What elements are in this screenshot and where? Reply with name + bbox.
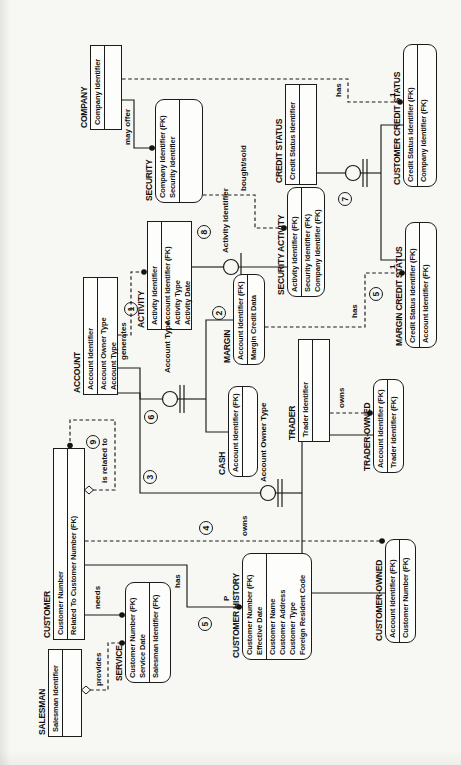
- attribute-row: Salesman Identifier: [51, 654, 61, 732]
- label-provides: provides: [94, 653, 103, 686]
- entity-title: CUSTOMER CREDIT STATUS: [392, 72, 402, 185]
- label-owns-trader: owns: [337, 388, 346, 408]
- label-is-related-to: is related to: [100, 438, 109, 483]
- attribute-row: Company Identifier (FK): [313, 192, 323, 292]
- nonkey-attributes: Customer NameCustomer AddressCustomer Ty…: [266, 554, 311, 659]
- entity-customer: CUSTOMERCustomer NumberRelated To Custom…: [53, 448, 85, 640]
- entity-box: Account Identifier (FK)Margin Credit Dat…: [233, 274, 265, 365]
- nonkey-attributes: Customer Number (FK): [399, 540, 415, 642]
- label-cardinality-p-customer-history: P: [222, 596, 231, 601]
- entity-margin-credit-status: MARGIN CREDIT STATUSCredit Status Identi…: [405, 222, 437, 348]
- label-needs: needs: [93, 586, 102, 609]
- entity-title: MARGIN CREDIT STATUS: [394, 246, 404, 346]
- entity-box: Customer Number (FK)Service DateSalesman…: [125, 582, 171, 683]
- entity-box: Salesman Identifier: [48, 649, 82, 737]
- entity-box: Credit Status Identifier (FK)Account Ide…: [405, 222, 437, 348]
- attribute-row: Service Date: [138, 587, 148, 678]
- attribute-row: Related To Customer Number (FK): [69, 453, 79, 635]
- connector-needs: [85, 612, 125, 618]
- nonkey-attributes: Trader Identifier (FK): [387, 380, 403, 472]
- circled-number-8: 8: [197, 225, 211, 239]
- label-owns-customer: owns: [240, 516, 249, 536]
- key-attributes: Credit Status Identifier (FK): [404, 45, 417, 186]
- nonkey-attributes: [312, 340, 329, 441]
- label-cardinality-1-margin-credit-status: 1: [388, 265, 397, 269]
- entity-credit-status: CREDIT STATUSCredit Status Identifier: [285, 84, 317, 185]
- label-has-customer-history: has: [173, 574, 182, 588]
- nonkey-attributes: Account Identifier (FK)Activity TypeActi…: [161, 222, 194, 329]
- label-has-customer-credit-status: has: [334, 83, 343, 97]
- circled-number-5: 5: [198, 617, 212, 631]
- key-attributes: Company Identifier: [91, 46, 104, 129]
- entity-title: SECURITY: [144, 160, 154, 201]
- entity-trader-owned: TRADER-OWNEDAccount Identifier (FK)Trade…: [373, 379, 404, 473]
- entity-trader: TRADERTrader Identifier: [298, 339, 330, 442]
- entity-title: CUSTOMER: [42, 591, 52, 638]
- nonkey-attributes: [179, 100, 202, 202]
- attribute-row: Activity Date: [183, 226, 193, 325]
- circled-number-4: 4: [199, 521, 213, 535]
- nonkey-attributes: Company Identifier (FK): [417, 45, 436, 186]
- entity-box: Activity Identifier (FK)Security Identif…: [287, 187, 325, 297]
- entity-security-activity: SECURITY ACTIVITYActivity Identifier (FK…: [287, 187, 325, 297]
- nonkey-attributes: Account Identifier (FK): [419, 223, 436, 347]
- attribute-row: Account Type: [109, 282, 119, 390]
- label-category-account-type: Account Type: [163, 321, 172, 373]
- key-attributes: Credit Status Identifier (FK): [406, 223, 419, 347]
- er-diagram-canvas: SALESMANSalesman IdentifierCUSTOMERCusto…: [0, 0, 461, 765]
- attribute-row: Trader Identifier (FK): [389, 384, 399, 468]
- label-may-offer: may offer: [123, 109, 132, 145]
- nonkey-attributes: [299, 85, 316, 184]
- key-attributes: Company Identifier (FK)Security Identifi…: [156, 100, 179, 202]
- nonkey-attributes: Salesman Identifier (FK): [149, 583, 170, 682]
- label-cardinality-1-customer-credit-status: 1: [388, 93, 397, 97]
- entity-activity: ACTIVITYActivity IdentifierAccount Ident…: [147, 221, 192, 330]
- entity-margin: MARGINAccount Identifier (FK)Margin Cred…: [233, 274, 265, 365]
- label-bought-sold: bought/sold: [239, 145, 248, 191]
- key-attributes: Customer Number (FK)Effective Date: [243, 554, 266, 659]
- entity-box: Company Identifier (FK)Security Identifi…: [155, 99, 203, 203]
- circled-number-7: 7: [338, 192, 352, 206]
- attribute-row: Security Identifier: [168, 104, 178, 198]
- attribute-row: Account Identifier (FK): [231, 391, 241, 472]
- attribute-row: Activity Identifier: [150, 226, 160, 325]
- attribute-row: Customer Number: [56, 453, 66, 635]
- key-attributes: Account Identifier (FK): [374, 380, 387, 472]
- entity-box: Credit Status Identifier (FK)Company Ide…: [403, 44, 437, 187]
- attribute-row: Activity Identifier (FK): [290, 192, 300, 292]
- scanned-page: SALESMANSalesman IdentifierCUSTOMERCusto…: [0, 0, 461, 765]
- entity-title: MARGIN: [222, 330, 232, 363]
- entity-box: Account Identifier (FK): [228, 386, 258, 477]
- key-attributes: Account Identifier: [84, 278, 97, 394]
- circled-number-3: 3: [143, 470, 157, 484]
- attribute-row: Account Identifier (FK): [236, 279, 246, 360]
- attribute-row: Credit Status Identifier (FK): [406, 49, 416, 182]
- attribute-row: Salesman Identifier (FK): [151, 587, 161, 678]
- entity-salesman: SALESMANSalesman Identifier: [48, 649, 82, 737]
- entity-title: SERVICE: [114, 645, 124, 681]
- circled-number-5: 5: [369, 287, 383, 301]
- attribute-row: Account Owner Type: [99, 282, 109, 390]
- connector-owns-customer-owned: [85, 538, 385, 544]
- attribute-row: Customer Address: [278, 558, 288, 655]
- attribute-row: Margin Credit Data: [249, 279, 259, 360]
- entity-title: COMPANY: [79, 87, 89, 128]
- key-attributes: Salesman Identifier: [49, 650, 62, 736]
- entity-box: Account Identifier (FK)Customer Number (…: [385, 539, 416, 643]
- attribute-row: Account Identifier (FK): [376, 384, 386, 468]
- circled-number-1: 1: [124, 302, 138, 316]
- attribute-row: Company Identifier: [93, 50, 103, 125]
- entity-title: CUSTOMER HISTORY: [231, 573, 241, 658]
- attribute-row: Customer Name: [268, 558, 278, 655]
- nonkey-attributes: Margin Credit Data: [247, 275, 264, 364]
- attribute-row: Effective Date: [255, 558, 265, 655]
- attribute-row: Credit Status Identifier: [288, 89, 298, 180]
- nonkey-attributes: Account Owner TypeAccount Type: [97, 278, 120, 394]
- entity-company: COMPANYCompany Identifier: [90, 45, 122, 130]
- entity-title: SECURITY ACTIVITY: [276, 215, 286, 295]
- nonkey-attributes: [242, 387, 257, 476]
- attribute-row: Security Identifier (FK): [303, 192, 313, 292]
- entity-cash: CASHAccount Identifier (FK): [228, 386, 258, 477]
- entity-box: Activity IdentifierAccount Identifier (F…: [147, 221, 192, 330]
- entity-box: Customer NumberRelated To Customer Numbe…: [53, 448, 85, 640]
